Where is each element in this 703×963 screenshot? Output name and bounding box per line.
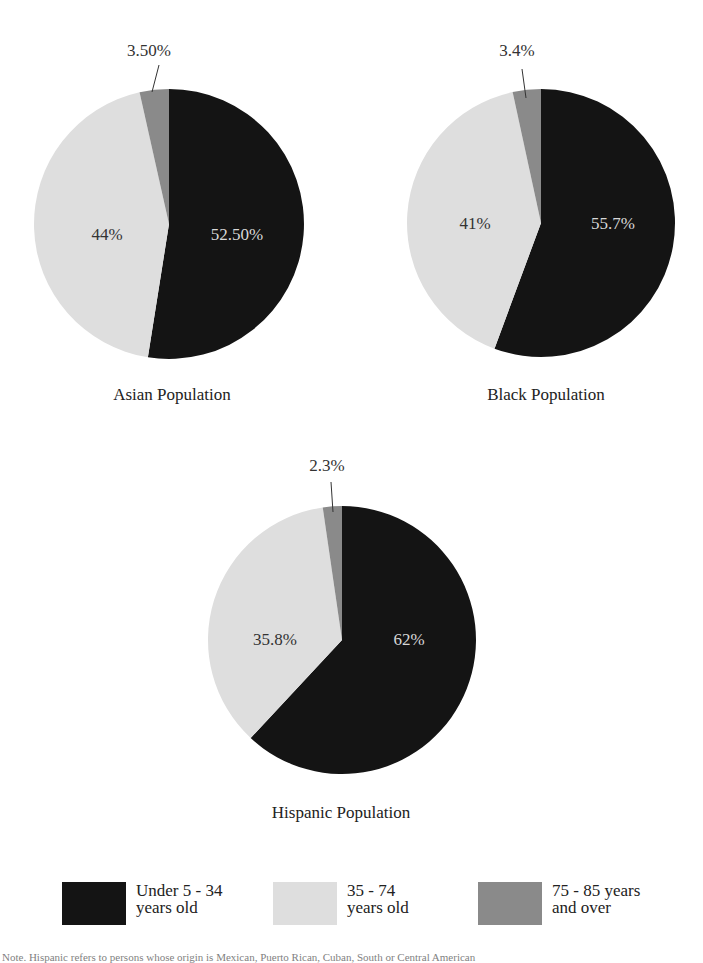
pie-hispanic-svg: [0, 0, 703, 840]
legend-text: 35 - 74 years old: [347, 882, 409, 916]
legend-label-line1: 75 - 85 years: [552, 882, 640, 899]
legend-item-75-85: 75 - 85 years and over: [478, 882, 640, 925]
legend-item-under-34: Under 5 - 34 years old: [62, 882, 222, 925]
legend-label-line2: years old: [136, 899, 222, 916]
pie-hispanic: 62% 35.8% 2.3% Hispanic Population: [0, 0, 703, 840]
legend-item-35-74: 35 - 74 years old: [273, 882, 409, 925]
legend-text: Under 5 - 34 years old: [136, 882, 222, 916]
legend-label-line2: and over: [552, 899, 640, 916]
label-35-74: 35.8%: [253, 630, 297, 650]
label-75-85: 2.3%: [309, 456, 344, 476]
legend-label-line2: years old: [347, 899, 409, 916]
figure-note: Note. Hispanic refers to persons whose o…: [2, 951, 475, 963]
legend-label-line1: Under 5 - 34: [136, 882, 222, 899]
pie-title-hispanic: Hispanic Population: [272, 803, 410, 823]
legend-swatch-under-34: [62, 882, 126, 925]
legend-label-line1: 35 - 74: [347, 882, 409, 899]
label-under-34: 62%: [393, 630, 424, 650]
legend-swatch-35-74: [273, 882, 337, 925]
legend-text: 75 - 85 years and over: [552, 882, 640, 916]
legend-swatch-75-85: [478, 882, 542, 925]
